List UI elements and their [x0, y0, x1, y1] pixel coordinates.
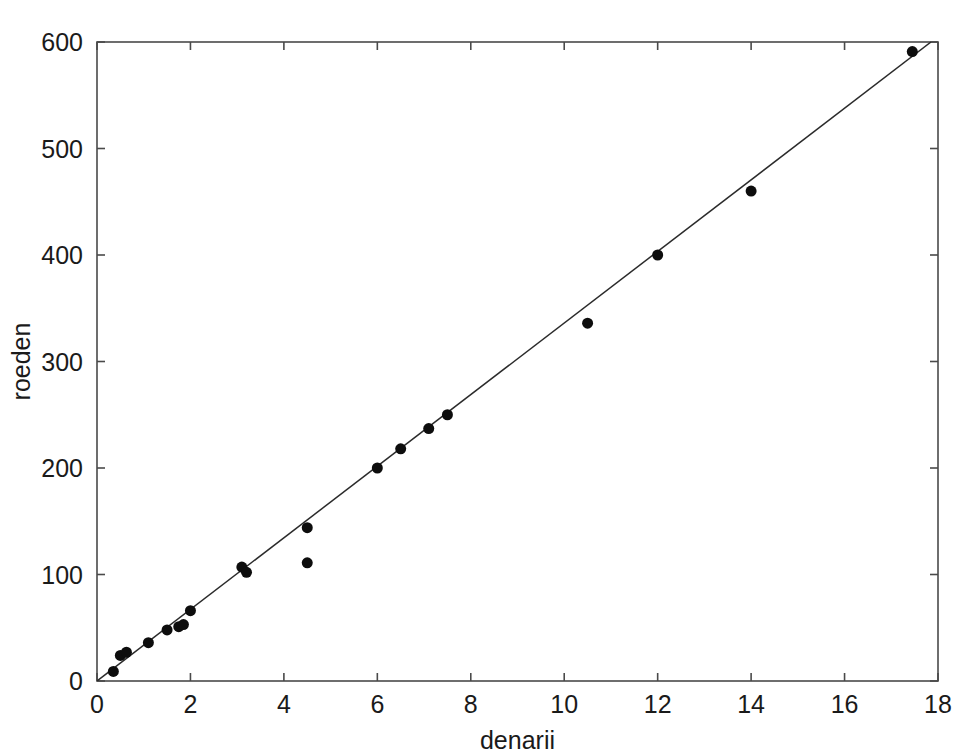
data-point — [372, 463, 383, 474]
data-point — [143, 637, 154, 648]
data-point — [302, 522, 313, 533]
data-point — [162, 624, 173, 635]
data-point — [582, 318, 593, 329]
y-axis-title: roeden — [7, 323, 35, 401]
data-point — [652, 250, 663, 261]
x-tick-label: 14 — [737, 690, 765, 718]
x-axis-title: denarii — [480, 726, 555, 754]
y-tick-label: 0 — [69, 667, 83, 695]
x-tick-label: 6 — [370, 690, 384, 718]
data-point — [395, 443, 406, 454]
scatter-plot-figure: 0246810121416180100200300400500600denari… — [0, 0, 978, 754]
y-tick-label: 100 — [41, 561, 83, 589]
regression-fit-line — [97, 42, 931, 681]
data-point — [121, 647, 132, 658]
x-tick-label: 4 — [277, 690, 291, 718]
x-tick-label: 16 — [831, 690, 859, 718]
x-tick-label: 0 — [90, 690, 104, 718]
y-tick-label: 400 — [41, 241, 83, 269]
data-point — [907, 46, 918, 57]
y-tick-label: 600 — [41, 28, 83, 56]
plot-canvas: 0246810121416180100200300400500600denari… — [0, 0, 978, 754]
x-tick-label: 18 — [924, 690, 952, 718]
data-point — [442, 409, 453, 420]
data-point — [241, 567, 252, 578]
data-point — [108, 666, 119, 677]
data-point — [185, 605, 196, 616]
data-point — [423, 423, 434, 434]
data-point — [178, 619, 189, 630]
y-tick-label: 300 — [41, 348, 83, 376]
x-tick-label: 12 — [644, 690, 672, 718]
data-point — [746, 186, 757, 197]
x-tick-label: 10 — [550, 690, 578, 718]
data-point — [302, 557, 313, 568]
y-tick-label: 200 — [41, 454, 83, 482]
x-tick-label: 2 — [183, 690, 197, 718]
y-tick-label: 500 — [41, 135, 83, 163]
x-tick-label: 8 — [464, 690, 478, 718]
